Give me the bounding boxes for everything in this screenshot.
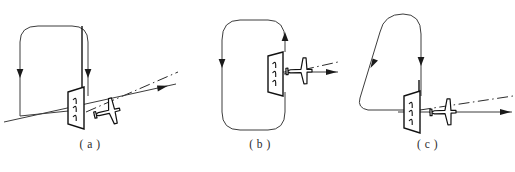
diagram-panel-b: ( b ): [180, 0, 340, 172]
approach-path-a: [4, 84, 176, 122]
figure-root: ( a ): [0, 0, 515, 172]
track-arrow-left-a: [17, 69, 24, 78]
approach-arrowhead-a: [157, 86, 168, 92]
runway-marker-a: [68, 26, 84, 129]
centerline-a: [86, 72, 178, 112]
panel-caption-c: ( c ): [340, 138, 515, 150]
track-arrow-left-b: [219, 59, 226, 68]
centerline-c: [420, 96, 513, 110]
track-arrow-right-c: [418, 57, 425, 66]
approach-arrowhead-b: [326, 69, 337, 75]
panel-caption-b: ( b ): [180, 138, 340, 150]
approach-arrowhead-c: [500, 109, 511, 115]
aircraft-symbol-b: [286, 58, 313, 85]
aircraft-symbol-c: [430, 99, 457, 126]
track-arrow-right-b: [282, 32, 289, 41]
runway-marker-c: [404, 80, 420, 133]
panel-caption-a: ( a ): [0, 138, 180, 150]
diagram-panel-c: ( c ): [340, 0, 515, 172]
runway-marker-b: [268, 52, 283, 96]
track-arrow-right-a: [85, 69, 92, 78]
diagram-panel-a: ( a ): [0, 0, 180, 172]
